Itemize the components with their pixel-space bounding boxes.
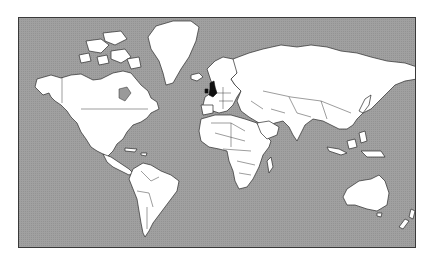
- world-map-frame: [18, 17, 416, 248]
- world-map: [19, 18, 416, 248]
